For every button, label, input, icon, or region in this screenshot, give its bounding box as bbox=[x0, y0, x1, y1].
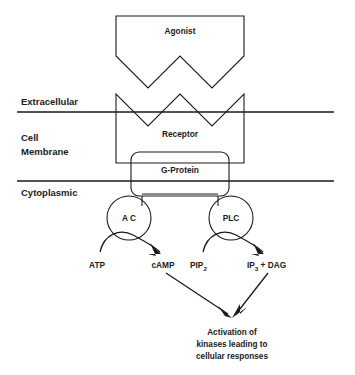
ac-reaction-arc bbox=[100, 232, 160, 252]
dag-suffix: + DAG bbox=[258, 260, 286, 270]
camp-to-outcome-arrow bbox=[166, 273, 228, 314]
ip3-to-outcome-arrowhead bbox=[232, 304, 247, 318]
outcome-line-3: cellular responses bbox=[196, 352, 268, 361]
signal-transduction-diagram: Agonist Receptor G-Protein A C PLC ATP c… bbox=[0, 0, 355, 375]
cytoplasmic-label: Cytoplasmic bbox=[21, 187, 78, 198]
pip2-label: PIP2 bbox=[190, 260, 207, 272]
atp-label: ATP bbox=[89, 260, 105, 270]
cell-label: Cell bbox=[21, 132, 38, 143]
phospholipase-c-label: PLC bbox=[223, 213, 240, 223]
outcome-line-1: Activation of bbox=[207, 328, 257, 337]
pip2-base: PIP bbox=[190, 260, 204, 270]
ip3-to-outcome-arrow bbox=[236, 273, 268, 314]
camp-label: cAMP bbox=[151, 260, 175, 270]
extracellular-label: Extracellular bbox=[21, 96, 78, 107]
adenylate-cyclase-label: A C bbox=[122, 213, 136, 223]
outcome-line-2: kinases leading to bbox=[197, 340, 268, 349]
receptor-label: Receptor bbox=[162, 129, 199, 139]
plc-reaction-arc bbox=[203, 232, 263, 252]
g-protein-label: G-Protein bbox=[161, 165, 199, 175]
ip3-dag-label: IP3 + DAG bbox=[247, 260, 286, 272]
diagram-canvas: Agonist Receptor G-Protein A C PLC ATP c… bbox=[0, 0, 355, 375]
agonist-label: Agonist bbox=[165, 26, 196, 36]
membrane-label: Membrane bbox=[21, 146, 69, 157]
pip2-subscript: 2 bbox=[203, 265, 207, 272]
